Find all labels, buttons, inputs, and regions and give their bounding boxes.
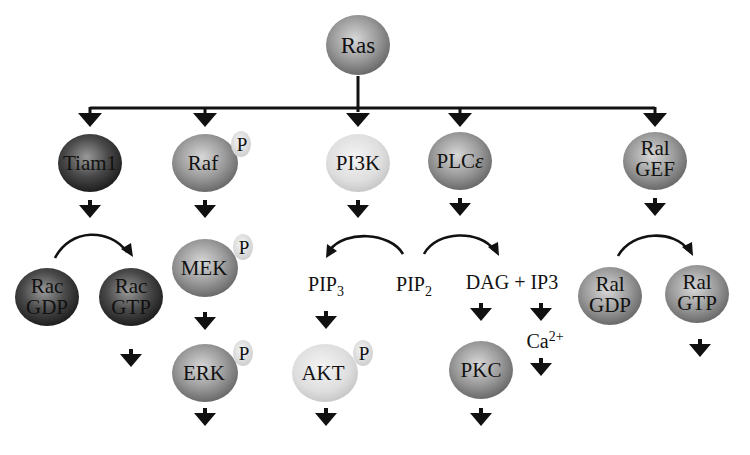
label-dag-ip3: DAG + IP3 [466, 271, 558, 293]
svg-text:PIP2: PIP2 [396, 273, 432, 299]
node-erk[interactable]: ERK P [172, 340, 253, 402]
pip3-subscript: 3 [337, 284, 344, 299]
arrow-down-mek [194, 312, 216, 330]
node-raf[interactable]: Raf P [172, 131, 251, 192]
label-pip2: PIP2 [396, 273, 432, 299]
node-tiam1[interactable]: Tiam1 [58, 134, 122, 192]
node-ralgef-line2: GEF [635, 157, 675, 181]
svg-text:PIP3: PIP3 [308, 273, 344, 299]
connectors [90, 76, 655, 116]
arrow-down-erk [194, 408, 216, 426]
node-ral-gdp-line2: GDP [589, 293, 631, 317]
ras-pathway-diagram: Ras Tiam1 Raf P PI3K PLCε Ral GEF Rac GD… [0, 0, 750, 455]
raf-phospho-badge: P [231, 131, 251, 157]
svg-text:Ca2+: Ca2+ [526, 329, 563, 352]
node-rac-gdp-line2: GDP [26, 295, 68, 319]
arrow-to-pi3k [346, 113, 370, 127]
arrow-to-tiam1 [78, 113, 102, 127]
node-ras[interactable]: Ras [326, 15, 390, 75]
arrow-down-rac-gtp [120, 349, 142, 367]
node-tiam1-label: Tiam1 [63, 151, 117, 175]
arrow-down-plce [449, 198, 471, 216]
svg-text:PLCε: PLCε [437, 149, 485, 173]
node-pkc-label: PKC [461, 358, 502, 382]
node-pkc[interactable]: PKC [449, 341, 513, 399]
arrow-down-pi3k [347, 200, 369, 218]
node-ral-gdp[interactable]: Ral GDP [578, 267, 642, 325]
arrow-down-ca [530, 358, 552, 376]
node-pi3k-label: PI3K [336, 151, 380, 175]
arrow-down-ral-gtp [689, 339, 711, 357]
arrow-down-pip3 [315, 311, 337, 329]
node-rac-gdp[interactable]: Rac GDP [15, 268, 79, 326]
arrow-to-ralgef [643, 113, 667, 127]
node-plce-label: PLC [437, 149, 476, 173]
arrow-down-ralgef [644, 198, 666, 216]
node-akt-label: AKT [301, 361, 344, 385]
plce-pip2-to-dag-arrow [424, 235, 499, 256]
node-rac-gtp-line2: GTP [111, 295, 151, 319]
arrow-down-raf [194, 200, 216, 218]
node-plce[interactable]: PLCε [428, 132, 492, 190]
arrow-down-akt [315, 408, 337, 426]
node-rac-gtp[interactable]: Rac GTP [99, 268, 163, 326]
svg-text:P: P [359, 343, 370, 364]
svg-text:P: P [239, 343, 250, 364]
calcium-superscript: 2+ [549, 329, 564, 344]
node-pi3k[interactable]: PI3K [326, 134, 390, 192]
rac-exchange-arrow [55, 235, 133, 258]
arrow-down-pkc [470, 408, 492, 426]
node-mek[interactable]: MEK P [172, 234, 253, 297]
pi3k-pip2-to-pip3-arrow [326, 236, 403, 258]
node-ral-gtp[interactable]: Ral GTP [665, 265, 729, 323]
arrow-to-plce [448, 113, 472, 127]
pip2-subscript: 2 [425, 284, 432, 299]
curved-arrows [55, 235, 693, 258]
node-akt[interactable]: AKT P [292, 340, 373, 402]
node-ras-label: Ras [341, 33, 376, 58]
arrow-down-dag [470, 303, 492, 321]
node-ralgef[interactable]: Ral GEF [623, 132, 687, 190]
svg-text:P: P [237, 134, 248, 155]
node-ral-gtp-line2: GTP [677, 291, 717, 315]
label-calcium: Ca2+ [526, 329, 563, 352]
ral-exchange-arrow [618, 236, 693, 256]
label-pip3: PIP3 [308, 273, 344, 299]
arrow-down-ip3 [530, 303, 552, 321]
node-raf-label: Raf [188, 151, 218, 175]
arrow-down-tiam1 [79, 200, 101, 218]
arrow-to-raf [193, 113, 217, 127]
erk-phospho-badge: P [233, 340, 253, 366]
svg-text:P: P [239, 237, 250, 258]
node-plce-epsilon: ε [475, 149, 484, 173]
node-erk-label: ERK [183, 361, 225, 385]
node-mek-label: MEK [181, 256, 228, 280]
akt-phospho-badge: P [353, 340, 373, 366]
mek-phospho-badge: P [233, 234, 253, 260]
